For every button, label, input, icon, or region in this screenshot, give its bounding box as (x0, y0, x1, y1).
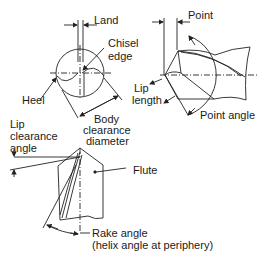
label-lip-clearance-1: Lip (10, 118, 25, 130)
label-body-clearance-3: diameter (86, 135, 129, 147)
label-heel: Heel (22, 94, 45, 106)
label-lip-clearance-3: angle (10, 142, 37, 154)
label-chisel-edge-2: edge (108, 50, 132, 62)
side-view (150, 18, 258, 115)
label-flute: Flute (133, 164, 157, 176)
label-point-angle: Point angle (200, 109, 255, 121)
label-lip-clearance-2: clearance (10, 130, 58, 142)
end-view (40, 20, 122, 118)
label-land: Land (94, 14, 118, 26)
label-point: Point (188, 9, 213, 21)
label-lip-length-1: Lip (134, 82, 149, 94)
label-chisel-edge-1: Chisel (108, 37, 139, 49)
label-lip-length-2: length (132, 94, 162, 106)
label-rake-angle-1: Rake angle (92, 227, 148, 239)
flute-view (10, 148, 126, 234)
label-rake-angle-2: (helix angle at periphery) (92, 239, 213, 251)
